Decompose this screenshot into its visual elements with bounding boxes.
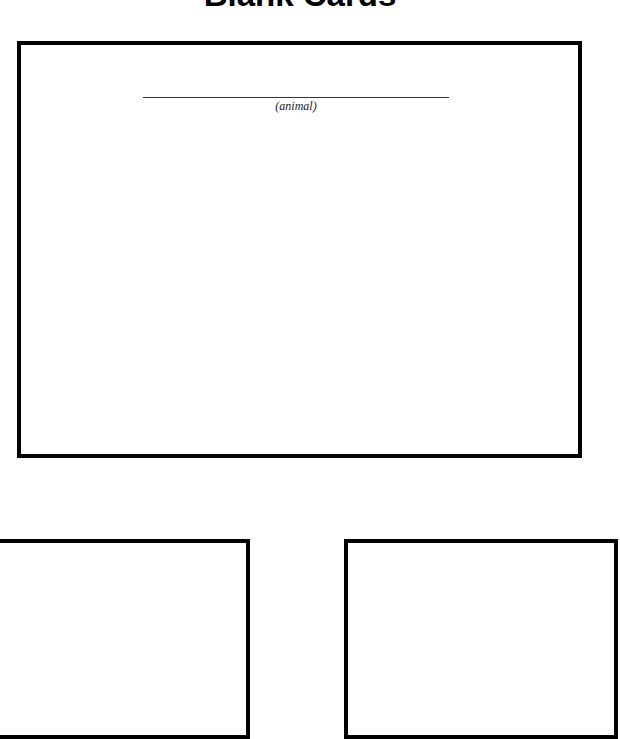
page-title: Blank Cards: [0, 0, 600, 11]
blank-card-bottom-left: [0, 539, 250, 739]
animal-write-in-line[interactable]: [143, 97, 449, 98]
blank-card-bottom-right: [344, 539, 618, 739]
animal-field-caption: (animal): [143, 99, 449, 114]
blank-card-main: (animal): [17, 41, 582, 458]
